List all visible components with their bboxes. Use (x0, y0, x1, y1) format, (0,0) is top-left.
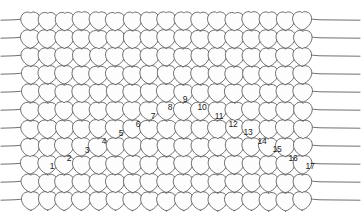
stitch-loop (208, 174, 227, 192)
stitch-loop (123, 30, 141, 48)
stitch-loop (123, 66, 142, 84)
stitch-loop (293, 48, 312, 66)
stitch-loop (157, 156, 176, 174)
stitch-loop (38, 192, 57, 210)
stitch-loop (208, 102, 227, 120)
stitch-loop (72, 174, 91, 192)
stitch-loop (191, 48, 209, 66)
stitch-loop (72, 48, 91, 66)
stitch-loop (242, 174, 261, 192)
stitch-loop (260, 84, 279, 102)
stitch-loop (140, 156, 159, 174)
stitch-loop (208, 84, 227, 102)
stitch-loop (140, 138, 159, 156)
stitch-loop (208, 66, 227, 84)
stitch-loop (72, 12, 91, 30)
stitch-loop (276, 30, 295, 48)
stitch-loop (293, 84, 313, 102)
stitch-loop (293, 66, 312, 84)
stitch-loop (276, 156, 295, 174)
stitch-loop (259, 193, 278, 211)
stitch-loop (140, 120, 159, 138)
stitch-loop (293, 156, 312, 174)
knit-structure-svg (0, 0, 361, 224)
stitch-loop (55, 156, 75, 174)
stitch-loop (242, 138, 261, 156)
stitch-loop (21, 120, 41, 138)
stitch-loop (224, 156, 244, 174)
stitch-loop (225, 174, 244, 192)
stitch-loop (38, 48, 57, 66)
stitch-loop (174, 48, 193, 66)
stitch-loop (276, 174, 295, 192)
right-selvedge-yarns (308, 18, 360, 200)
stitch-loop (276, 48, 296, 66)
stitch-loop (259, 30, 278, 48)
stitch-loop (174, 66, 193, 84)
stitch-loop (72, 120, 91, 138)
stitch-loop (89, 102, 108, 120)
stitch-loop (106, 30, 125, 48)
stitch-loop (191, 138, 211, 156)
stitch-loop (21, 48, 40, 66)
stitch-loop (55, 30, 74, 48)
stitch-loop (191, 102, 211, 120)
stitch-loop (123, 102, 142, 120)
stitch-loop (38, 12, 57, 30)
stitch-loop (21, 174, 41, 192)
stitch-loop (21, 66, 40, 84)
selvedge-yarn-right (308, 54, 360, 56)
stitch-loop (38, 156, 57, 174)
stitch-loop (89, 192, 108, 210)
stitch-loop (276, 193, 295, 211)
stitch-loop (208, 48, 227, 66)
stitch-loop (157, 138, 176, 156)
stitch-loop (208, 30, 227, 48)
stitch-loop (174, 192, 193, 210)
stitch-loop (140, 12, 159, 30)
stitch-loop (157, 48, 176, 66)
stitch-loop (191, 12, 210, 30)
stitch-loop (174, 85, 193, 103)
stitch-loop (105, 12, 125, 30)
stitch-loop (105, 48, 125, 66)
stitch-loop (55, 120, 73, 138)
stitch-loop (224, 84, 244, 102)
stitch-loop (293, 174, 312, 192)
stitch-loop (55, 66, 74, 84)
stitch-loop (21, 84, 40, 102)
stitch-loop (89, 84, 108, 102)
stitch-loop (21, 139, 40, 157)
stitch-loop (72, 156, 91, 174)
stitch-loop (89, 66, 108, 84)
stitch-loop (259, 12, 278, 30)
stitch-loop (259, 174, 278, 192)
stitch-loop (208, 138, 227, 156)
stitch-loop (224, 192, 244, 210)
stitch-loop (173, 174, 193, 192)
stitch-loop (242, 30, 261, 48)
stitch-loop (276, 12, 295, 30)
stitch-loop (191, 30, 211, 48)
stitch-loop (20, 156, 39, 174)
stitch-loop (174, 30, 193, 48)
stitch-loop (38, 102, 58, 120)
stitch-loop (293, 12, 312, 30)
stitch-loop (208, 12, 227, 30)
stitch-loop (89, 120, 107, 138)
stitch-loop (157, 102, 176, 120)
stitch-loop (242, 48, 261, 66)
stitch-loop (39, 84, 58, 102)
stitch-loop (140, 174, 159, 192)
stitch-loop (175, 120, 194, 138)
stitch-loop (55, 192, 74, 210)
stitch-loop (55, 102, 73, 120)
selvedge-yarn-right (308, 108, 360, 110)
knit-fabric-figure: 1234567891011121314151617 (0, 0, 361, 224)
stitch-loop (156, 84, 176, 102)
stitch-loop (71, 192, 91, 210)
selvedge-yarn-right (308, 198, 360, 200)
stitch-loop (259, 48, 278, 66)
stitch-loop (123, 48, 142, 66)
stitch-loop (242, 12, 261, 30)
